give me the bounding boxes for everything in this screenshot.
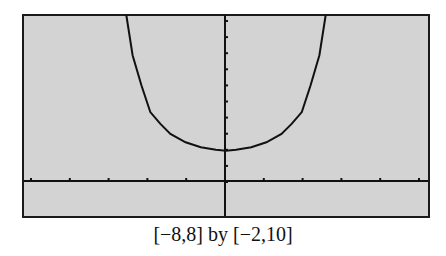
window-caption: [−8,8] by [−2,10] bbox=[0, 223, 446, 246]
graph-plot bbox=[0, 0, 446, 256]
